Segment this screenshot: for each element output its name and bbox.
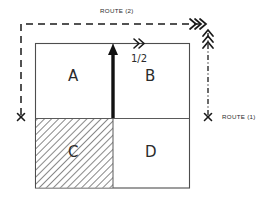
quadrant-c-fill [36,119,113,188]
main-up-arrow [108,44,118,119]
diagram-canvas [0,0,267,204]
route-diagram: ROUTE (2) ROUTE (1) 1/2 A B C D [0,0,267,204]
